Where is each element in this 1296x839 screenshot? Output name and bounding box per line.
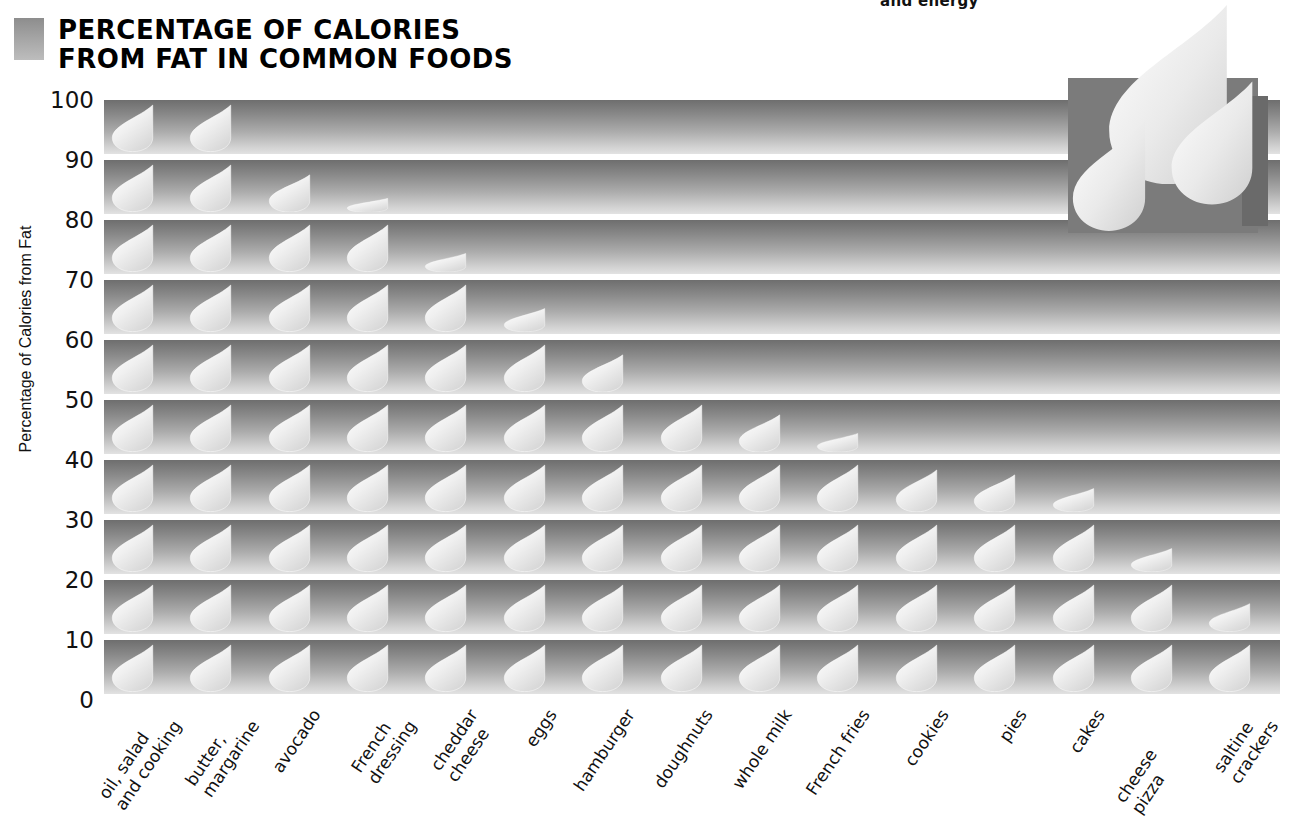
chart-band <box>104 520 1280 574</box>
droplet-icon <box>971 644 1018 692</box>
droplet-icon <box>266 164 313 212</box>
x-axis-tick-label: cheese pizza <box>1111 706 1204 818</box>
droplet-icon <box>893 644 940 692</box>
page-bleed-text: and energy <box>880 0 979 10</box>
chart-band <box>104 460 1280 514</box>
droplet-icon <box>187 404 234 452</box>
droplet-icon <box>814 584 861 632</box>
y-axis-tick-label: 20 <box>65 567 94 593</box>
x-axis-tick-label: eggs <box>522 706 561 751</box>
y-axis-tick-label: 40 <box>65 447 94 473</box>
droplet-icon <box>501 344 548 392</box>
x-axis-tick-label: saltine crackers <box>1210 706 1282 787</box>
x-axis-tick-label: cookies <box>901 706 953 770</box>
droplet-icon <box>422 464 469 512</box>
droplet-icon <box>1128 524 1175 572</box>
droplet-icon <box>422 644 469 692</box>
droplet-icon <box>736 524 783 572</box>
droplet-icon <box>971 464 1018 512</box>
page-title: PERCENTAGE OF CALORIES FROM FAT IN COMMO… <box>58 16 513 74</box>
droplet-icon <box>266 644 313 692</box>
x-axis-tick-label: cheddar cheese <box>427 706 498 786</box>
title-swatch-icon <box>14 18 44 60</box>
x-axis-tick-label: hamburger <box>570 706 639 795</box>
droplet-icon <box>501 284 548 332</box>
y-axis-tick-label: 70 <box>65 267 94 293</box>
droplet-icon <box>187 464 234 512</box>
x-axis-tick-label: avocado <box>269 706 325 776</box>
x-axis-ticks: oil, salad and cookingbutter, margarinea… <box>104 700 1280 839</box>
droplet-icon <box>814 644 861 692</box>
x-axis-tick-label: whole milk <box>729 706 796 793</box>
y-axis-tick-label: 10 <box>65 627 94 653</box>
droplet-icon <box>422 344 469 392</box>
droplet-icon <box>579 464 626 512</box>
droplet-icon <box>422 524 469 572</box>
droplet-icon <box>736 404 783 452</box>
droplet-icon <box>187 104 234 152</box>
droplet-icon <box>109 464 156 512</box>
y-axis-tick-label: 100 <box>50 87 94 113</box>
chart-band <box>104 100 1280 154</box>
droplet-icon <box>266 524 313 572</box>
droplet-icon <box>109 104 156 152</box>
x-axis-tick-label: cakes <box>1066 706 1109 757</box>
droplet-icon <box>814 524 861 572</box>
droplet-icon <box>266 224 313 272</box>
droplet-icon <box>266 284 313 332</box>
droplet-icon <box>344 644 391 692</box>
chart-title-block: PERCENTAGE OF CALORIES FROM FAT IN COMMO… <box>14 18 513 74</box>
droplet-icon <box>109 344 156 392</box>
droplet-icon <box>658 524 705 572</box>
droplet-icon <box>501 644 548 692</box>
x-axis-tick-label: French dressing <box>348 706 421 787</box>
droplet-icon <box>893 464 940 512</box>
droplet-icon <box>109 644 156 692</box>
droplet-icon <box>501 404 548 452</box>
droplet-icon <box>109 524 156 572</box>
chart-band <box>104 280 1280 334</box>
droplet-icon <box>187 224 234 272</box>
chart-band <box>104 340 1280 394</box>
droplet-icon <box>658 644 705 692</box>
chart-band <box>104 400 1280 454</box>
droplet-icon <box>344 404 391 452</box>
droplet-icon <box>736 644 783 692</box>
droplet-icon <box>1206 644 1253 692</box>
droplet-icon <box>814 464 861 512</box>
droplet-icon <box>1050 584 1097 632</box>
droplet-icon <box>187 644 234 692</box>
droplet-icon <box>658 584 705 632</box>
droplet-icon <box>971 524 1018 572</box>
y-axis-tick-label: 0 <box>79 687 94 713</box>
droplet-icon <box>187 344 234 392</box>
y-axis-tick-label: 50 <box>65 387 94 413</box>
droplet-icon <box>736 464 783 512</box>
droplet-icon <box>266 584 313 632</box>
x-axis-tick-label: oil, salad and cooking <box>95 706 185 814</box>
droplet-icon <box>579 344 626 392</box>
droplet-icon <box>501 524 548 572</box>
droplet-icon <box>501 464 548 512</box>
droplet-icon <box>422 404 469 452</box>
droplet-icon <box>1050 524 1097 572</box>
y-axis-title: Percentage of Calories from Fat <box>17 209 35 469</box>
droplet-icon <box>422 284 469 332</box>
droplet-icon <box>109 224 156 272</box>
y-axis-tick-label: 90 <box>65 147 94 173</box>
x-axis-tick-label: butter, margarine <box>182 706 264 801</box>
droplet-icon <box>658 404 705 452</box>
droplet-icon <box>1050 464 1097 512</box>
droplet-icon <box>109 584 156 632</box>
droplet-icon <box>187 524 234 572</box>
droplet-icon <box>109 164 156 212</box>
droplet-icon <box>422 584 469 632</box>
droplet-icon <box>266 404 313 452</box>
chart-band <box>104 160 1280 214</box>
y-axis-tick-label: 30 <box>65 507 94 533</box>
droplet-icon <box>344 224 391 272</box>
droplet-icon <box>1050 644 1097 692</box>
droplet-icon <box>344 524 391 572</box>
droplet-icon <box>579 644 626 692</box>
x-axis-tick-label: French fries <box>803 706 875 799</box>
